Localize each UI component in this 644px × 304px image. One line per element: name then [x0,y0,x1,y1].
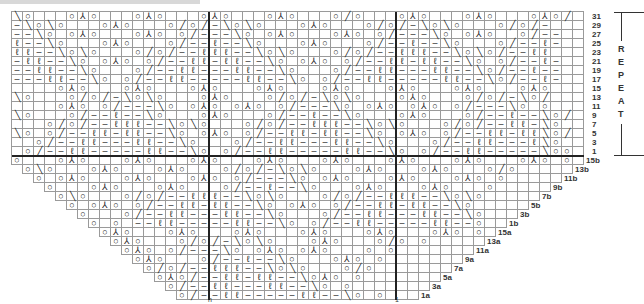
chart-cell-knit-tbl: ℓ [353,219,364,228]
chart-cell-knit [408,255,419,264]
chart-cell-knit [298,210,309,219]
chart-cell-knit [518,183,529,192]
repeat-letter: P [618,70,624,80]
chart-cell-yarn-over: ○ [78,156,89,165]
chart-cell-yarn-over: ○ [298,39,309,48]
chart-cell-knit [232,84,243,93]
chart-cell-sk2p: ⅄ [166,165,177,174]
chart-cell-knit [287,237,298,246]
chart-cell-knit [518,192,529,201]
chart-cell-purl: – [287,183,298,192]
chart-cell-yarn-over: ○ [122,156,133,165]
row-label: 13 [592,93,601,102]
row-label: 9a [465,255,474,264]
chart-cell-knit [375,273,386,282]
chart-cell-yarn-over: ○ [188,174,199,183]
chart-cell-knit [364,84,375,93]
chart-cell-sk2p: ⅄ [133,156,144,165]
chart-cell-yarn-over: ○ [111,183,122,192]
chart-cell-knit [485,192,496,201]
chart-cell-knit [111,66,122,75]
chart-cell-yarn-over: ○ [221,111,232,120]
chart-cell-knit [562,30,573,39]
chart-cell-sk2p: ⅄ [210,129,221,138]
chart-cell-sk2p: ⅄ [276,12,287,21]
chart-cell-yarn-over: ○ [397,237,408,246]
chart-cell-purl: – [221,75,232,84]
chart-cell-knit [463,246,474,255]
chart-cell-purl: – [254,291,265,300]
chart-cell-yarn-over: ○ [166,21,177,30]
chart-cell-knit [452,237,463,246]
chart-cell-yarn-over: ○ [485,183,496,192]
chart-cell-knit [529,183,540,192]
chart-cell-yarn-over: ○ [287,30,298,39]
chart-cell-yarn-over: ○ [221,165,232,174]
chart-cell-sk2p: ⅄ [210,111,221,120]
chart-cell-knit [177,93,188,102]
chart-cell-sk2p: ⅄ [331,174,342,183]
chart-cell-knit [232,120,243,129]
chart-cell-yarn-over: ○ [474,192,485,201]
chart-cell-knit [166,84,177,93]
chart-cell-yarn-over: ○ [188,102,199,111]
chart-cell-purl: – [287,291,298,300]
chart-cell-knit [419,273,430,282]
row-label: 17 [592,75,601,84]
chart-cell-yarn-over: ○ [408,156,419,165]
repeat-bracket-bottom [614,155,644,156]
chart-cell-yarn-over: ○ [485,48,496,57]
row-label: 11a [476,246,489,255]
chart-cell-yarn-over: ○ [375,237,386,246]
chart-cell-knit [551,165,562,174]
chart-cell-knit [430,84,441,93]
repeat-letter: E [618,83,624,93]
chart-cell-yarn-over: ○ [430,228,441,237]
chart-cell-ssk: ╲ [298,183,309,192]
chart-cell-yarn-over: ○ [111,237,122,246]
chart-cell-yarn-over: ○ [133,255,144,264]
chart-cell-yarn-over: ○ [166,228,177,237]
chart-cell-knit [573,156,584,165]
chart-cell-sk2p: ⅄ [111,39,122,48]
chart-cell-yarn-over: ○ [100,228,111,237]
chart-cell-knit [474,237,485,246]
chart-cell-knit [540,174,551,183]
chart-cell-purl: – [551,75,562,84]
chart-cell-yarn-over: ○ [89,183,100,192]
chart-cell-knit [496,192,507,201]
chart-cell-ssk: ╲ [188,120,199,129]
chart-cell-knit [452,255,463,264]
chart-cell-knit [507,183,518,192]
chart-cell-yarn-over: ○ [408,174,419,183]
chart-cell-yarn-over: ○ [375,291,386,300]
chart-cell-knit [573,138,584,147]
chart-cell-yarn-over: ○ [23,165,34,174]
row-label: 7 [592,120,596,129]
chart-cell-yarn-over: ○ [232,102,243,111]
chart-cell-knit [518,174,529,183]
chart-cell-sk2p: ⅄ [331,156,342,165]
chart-cell-yarn-over: ○ [298,21,309,30]
chart-cell-sk2p: ⅄ [67,174,78,183]
chart-cell-yarn-over: ○ [298,228,309,237]
row-label: 15a [498,228,511,237]
chart-cell-sk2p: ⅄ [276,30,287,39]
chart-cell-yarn-over: ○ [419,165,430,174]
chart-cell-knit [441,84,452,93]
chart-cell-purl: – [320,291,331,300]
chart-cell-yarn-over: ○ [23,111,34,120]
chart-cell-sk2p: ⅄ [111,57,122,66]
chart-cell-knit [485,201,496,210]
chart-cell-yarn-over: ○ [331,48,342,57]
chart-cell-yarn-over: ○ [342,156,353,165]
chart-cell-yarn-over: ○ [89,30,100,39]
chart-cell-yarn-over: ○ [320,39,331,48]
chart-cell-knit [507,192,518,201]
chart-cell-yarn-over: ○ [397,129,408,138]
chart-cell-purl: – [331,291,342,300]
chart-cell-ssk: ╲ [276,219,287,228]
chart-cell-yarn-over: ○ [155,30,166,39]
chart-cell-yarn-over: ○ [320,174,331,183]
chart-cell-yarn-over: ○ [254,102,265,111]
